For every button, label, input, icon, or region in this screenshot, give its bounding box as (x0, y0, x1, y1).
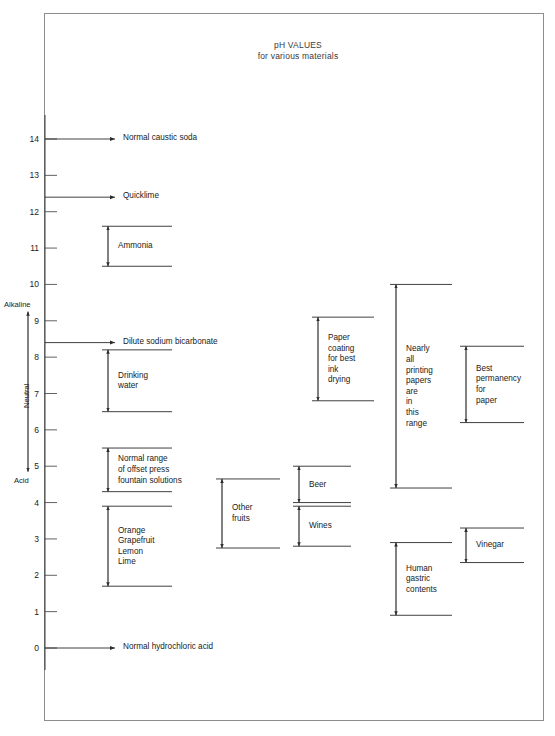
axis-tick-label-5: 5 (19, 462, 39, 471)
range-label-3-line-0: Orange (118, 526, 145, 537)
range-label-3-line-1: Grapefruit (118, 536, 154, 547)
range-label-11-line-0: Vinegar (476, 540, 504, 551)
range-label-10-line-1: permanency (476, 374, 521, 385)
range-label-9-line-0: Human (406, 564, 432, 575)
axis-label-alkaline: Alkaline (4, 300, 31, 309)
range-label-2-line-2: fountain solutions (118, 476, 182, 487)
range-label-6-line-0: Wines (309, 521, 332, 532)
range-label-8-line-7: range (406, 419, 427, 430)
range-label-4-line-0: Other (232, 503, 252, 514)
range-label-8-line-1: all (406, 355, 414, 366)
range-label-4-line-1: fruits (232, 514, 250, 525)
range-label-7-line-3: ink (328, 365, 338, 376)
range-label-7-line-0: Paper (328, 333, 350, 344)
range-label-8-line-5: in (406, 397, 412, 408)
range-label-7-line-2: for best (328, 354, 355, 365)
range-label-5-line-0: Beer (309, 480, 326, 491)
range-label-7-line-4: drying (328, 375, 350, 386)
axis-tick-label-0: 0 (19, 644, 39, 653)
pointer-label-3: Normal hydrochloric acid (123, 642, 213, 653)
range-label-1-line-0: Drinking (118, 371, 148, 382)
axis-tick-label-9: 9 (19, 317, 39, 326)
range-label-10-line-3: paper (476, 396, 497, 407)
range-label-2-line-0: Normal range (118, 454, 168, 465)
range-label-10-line-2: for (476, 385, 486, 396)
range-label-2-line-1: of offset press (118, 465, 169, 476)
axis-tick-label-11: 11 (19, 244, 39, 253)
axis-tick-label-6: 6 (19, 426, 39, 435)
range-label-0-line-0: Ammonia (118, 241, 153, 252)
axis-label-neutral: Neutral (22, 383, 31, 407)
axis-tick-label-4: 4 (19, 499, 39, 508)
range-label-8-line-4: are (406, 387, 418, 398)
axis-tick-label-8: 8 (19, 353, 39, 362)
range-label-9-line-2: contents (406, 585, 437, 596)
range-label-8-line-3: papers (406, 376, 431, 387)
axis-tick-label-1: 1 (19, 608, 39, 617)
range-label-8-line-2: printing (406, 366, 433, 377)
range-label-3-line-2: Lemon (118, 547, 143, 558)
range-label-8-line-6: this (406, 408, 419, 419)
range-label-10-line-0: Best (476, 364, 492, 375)
pointer-label-1: Quicklime (123, 191, 159, 202)
ph-scale-plot: 14131211109876543210AlkalineAcidNeutralN… (0, 0, 555, 736)
axis-tick-label-14: 14 (19, 135, 39, 144)
axis-tick-label-10: 10 (19, 280, 39, 289)
range-label-8-line-0: Nearly (406, 344, 430, 355)
axis-tick-label-13: 13 (19, 171, 39, 180)
range-label-7-line-1: coating (328, 344, 354, 355)
axis-tick-label-2: 2 (19, 571, 39, 580)
axis-tick-label-3: 3 (19, 535, 39, 544)
range-label-3-line-3: Lime (118, 557, 136, 568)
range-label-9-line-1: gastric (406, 574, 430, 585)
pointer-label-2: Dilute sodium bicarbonate (123, 337, 218, 348)
axis-tick-label-12: 12 (19, 208, 39, 217)
range-label-1-line-1: water (118, 381, 138, 392)
axis-label-acid: Acid (14, 476, 29, 485)
pointer-label-0: Normal caustic soda (123, 133, 197, 144)
